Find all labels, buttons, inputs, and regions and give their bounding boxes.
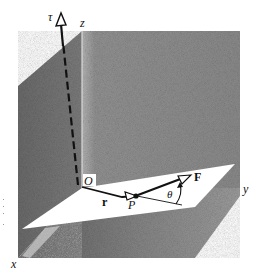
margin-ticks xyxy=(3,199,4,225)
back-wall-yz-plane xyxy=(82,31,240,190)
torque-arrowhead-icon xyxy=(56,13,66,26)
torque-diagram: τ z O r P F θ y x xyxy=(0,0,264,271)
label-theta: θ xyxy=(167,188,173,200)
label-y-axis: y xyxy=(242,182,249,196)
label-r: r xyxy=(102,195,108,209)
label-f: F xyxy=(194,170,201,184)
torque-vector-shaft xyxy=(61,24,63,46)
label-z-axis: z xyxy=(79,16,85,30)
label-x-axis: x xyxy=(10,257,17,271)
label-tau: τ xyxy=(48,10,53,24)
label-origin: O xyxy=(84,174,93,188)
label-p: P xyxy=(127,198,136,212)
